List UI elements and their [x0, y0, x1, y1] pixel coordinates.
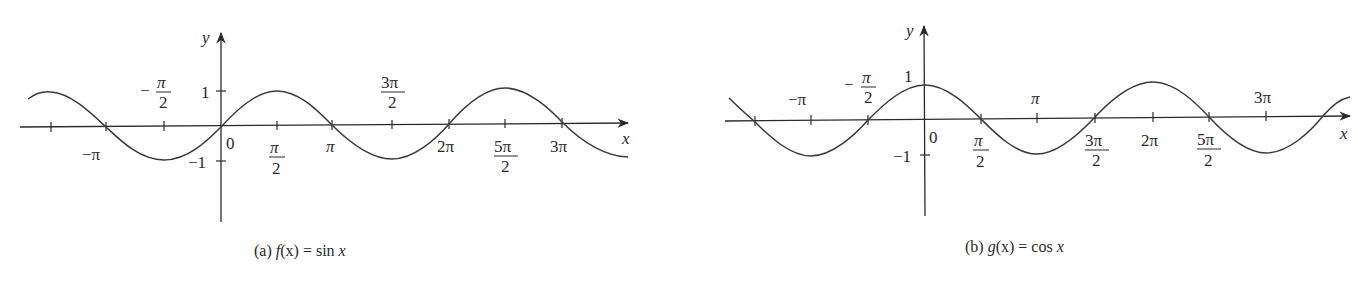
y-axis: [924, 26, 925, 216]
svg-text:5π: 5π: [494, 137, 512, 156]
svg-text:2: 2: [388, 93, 397, 112]
y-tick-1: 1: [904, 67, 913, 86]
x-axis-label: x: [1339, 124, 1348, 143]
y-axis-label: y: [904, 21, 914, 40]
svg-text:2: 2: [864, 88, 873, 107]
svg-text:3π: 3π: [1085, 131, 1103, 150]
svg-text:π: π: [270, 138, 279, 157]
x-tick-neg-half-pi: − π 2: [140, 73, 171, 112]
x-tick-five-half-pi: 5π 2: [1197, 130, 1221, 170]
y-tick-minus-1: −1: [893, 147, 911, 166]
svg-text:2: 2: [1092, 151, 1101, 170]
origin-label: 0: [226, 134, 235, 153]
x-tick-two-pi: 2π: [437, 137, 455, 156]
svg-text:2: 2: [272, 159, 281, 178]
x-tick-neg-pi: −π: [82, 145, 101, 164]
svg-text:π: π: [157, 73, 166, 92]
x-tick-three-half-pi: 3π 2: [1085, 131, 1109, 170]
origin-label: 0: [929, 128, 938, 147]
x-tick-neg-half-pi: − π 2: [844, 68, 876, 107]
x-tick-three-pi: 3π: [550, 137, 568, 156]
svg-text:−: −: [140, 81, 150, 100]
x-tick-half-pi: π 2: [269, 138, 285, 178]
figure-canvas: y x 0 1 −1 −π − π 2 π 2 π 3π 2 2π: [0, 0, 1358, 283]
svg-text:2: 2: [159, 93, 168, 112]
x-tick-three-half-pi: 3π 2: [381, 73, 405, 112]
x-tick-half-pi: π 2: [973, 131, 989, 171]
chart-a-sine: y x 0 1 −1 −π − π 2 π 2 π 3π 2 2π: [20, 28, 630, 260]
x-tick-pi: π: [1031, 89, 1040, 108]
svg-text:3π: 3π: [381, 73, 399, 92]
x-tick-three-pi: 3π: [1254, 88, 1272, 107]
chart-b-cosine: y x 0 1 −1 −π − π 2 π 2 π 3π 2 2π: [725, 21, 1350, 256]
svg-text:2: 2: [501, 157, 510, 176]
svg-text:−: −: [844, 75, 854, 94]
y-axis-label: y: [200, 28, 210, 47]
x-tick-five-half-pi: 5π 2: [494, 137, 518, 176]
x-tick-neg-pi: −π: [788, 90, 807, 109]
x-axis-label: x: [621, 129, 630, 148]
svg-text:2: 2: [976, 152, 985, 171]
y-tick-minus-1: −1: [188, 153, 206, 172]
x-tick-two-pi: 2π: [1141, 131, 1159, 150]
caption-a: (a) f(x) = sin x: [254, 242, 346, 260]
svg-text:π: π: [862, 68, 871, 87]
svg-text:5π: 5π: [1197, 130, 1215, 149]
svg-text:π: π: [974, 131, 983, 150]
y-tick-1: 1: [201, 83, 210, 102]
x-axis: [20, 123, 628, 127]
x-tick-pi: π: [326, 137, 335, 156]
svg-text:2: 2: [1204, 151, 1213, 170]
caption-b: (b) g(x) = cos x: [965, 238, 1064, 256]
